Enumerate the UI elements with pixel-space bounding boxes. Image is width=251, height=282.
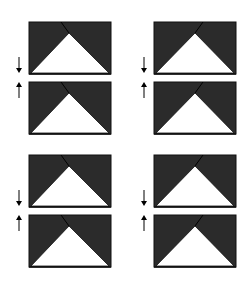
top-right-down-arrow-icon (141, 68, 147, 73)
top-left-down-arrow-icon (16, 68, 22, 73)
quilt-diagram (0, 0, 251, 282)
bottom-right-down-arrow-icon (141, 201, 147, 206)
bottom-left-down-arrow-icon (16, 201, 22, 206)
